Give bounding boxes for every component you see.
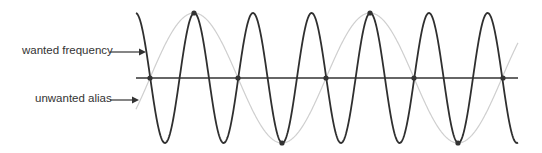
arrowhead-icon (132, 97, 139, 104)
sample-dot (500, 75, 505, 80)
alias-arrow (110, 97, 139, 104)
sample-dot (147, 75, 152, 80)
sample-dot (411, 75, 416, 80)
sample-dot (279, 140, 284, 145)
sample-dot (235, 75, 240, 80)
arrowhead-icon (139, 49, 146, 56)
sample-dot (191, 10, 196, 15)
wanted-arrow (110, 49, 146, 56)
aliasing-diagram (0, 0, 542, 153)
sample-dot (323, 75, 328, 80)
wanted-frequency-label: wanted frequency (22, 44, 113, 56)
sample-dot (367, 10, 372, 15)
sample-dot (455, 140, 460, 145)
unwanted-alias-label: unwanted alias (35, 92, 112, 104)
